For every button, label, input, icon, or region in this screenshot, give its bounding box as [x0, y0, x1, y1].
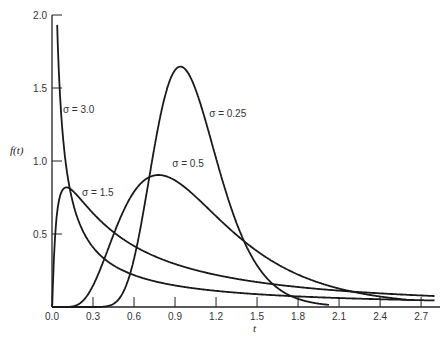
x-tick-label: 2.4	[373, 311, 387, 322]
x-tick-label: 1.2	[209, 311, 223, 322]
y-tick-label: 2.0	[33, 10, 47, 21]
x-tick-label: 1.5	[250, 311, 264, 322]
x-tick-label: 2.1	[332, 311, 346, 322]
x-tick-label: 0.3	[86, 311, 100, 322]
curve-sigma-3-label: σ = 3.0	[63, 104, 95, 115]
curve-sigma-0-5-label: σ = 0.5	[172, 158, 204, 169]
x-tick-label: 2.7	[414, 311, 428, 322]
x-tick-label: 0.0	[45, 311, 59, 322]
lognormal-pdf-chart: 0.51.01.52.00.00.30.60.91.21.51.82.12.42…	[0, 0, 448, 340]
series-labels: σ = 0.25σ = 0.5σ = 1.5σ = 3.0	[63, 104, 247, 198]
curve-sigma-0-25-label: σ = 0.25	[209, 108, 246, 119]
y-tick-label: 1.5	[33, 83, 47, 94]
curves	[52, 25, 435, 307]
y-tick-label: 0.5	[33, 229, 47, 240]
x-tick-label: 0.9	[168, 311, 182, 322]
x-axis-title: t	[253, 322, 257, 334]
x-tick-label: 1.8	[291, 311, 305, 322]
curve-sigma-3	[57, 25, 434, 301]
y-axis-title: f(t)	[10, 144, 24, 157]
curve-sigma-1-5-label: σ = 1.5	[82, 187, 114, 198]
y-tick-label: 1.0	[33, 156, 47, 167]
axes: 0.51.01.52.00.00.30.60.91.21.51.82.12.42…	[33, 10, 440, 322]
x-tick-label: 0.6	[127, 311, 141, 322]
